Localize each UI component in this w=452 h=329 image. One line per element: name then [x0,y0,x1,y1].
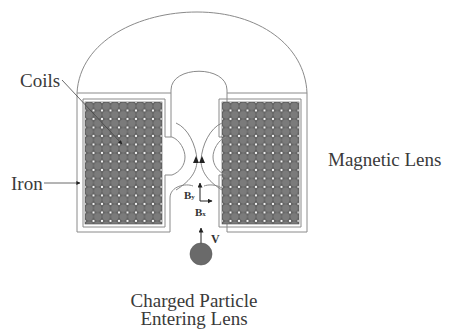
charged-particle [190,243,212,265]
left-coil-block [85,102,162,224]
b-x-label: Bx [195,207,206,218]
field-arrowheads [193,156,205,163]
particle-caption-line2: Entering Lens [94,309,294,328]
iron-dome-outline [77,12,307,93]
b-y-label: By [184,190,195,201]
pole-tips [172,137,226,175]
iron-label: Iron [11,174,43,193]
magnetic-lens-diagram: Coils Iron Magnetic Lens By Bx V Charged… [0,0,452,329]
right-coil-block [222,102,299,224]
b-y-subscript: y [191,193,195,201]
magnetic-field-lines [176,123,222,190]
coils-label: Coils [20,71,60,90]
velocity-label: V [211,233,220,245]
b-x-subscript: x [202,210,206,218]
magnetic-lens-label: Magnetic Lens [328,150,441,169]
